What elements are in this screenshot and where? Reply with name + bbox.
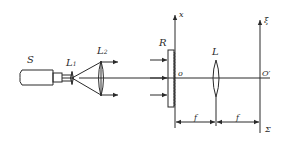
incident-arrows [150, 60, 167, 95]
label-lens1-sub: 1 [73, 60, 77, 67]
diagram-canvas [0, 0, 286, 143]
label-lens2-sub: 2 [104, 48, 108, 55]
label-lens1: L1 [66, 58, 76, 68]
label-lens1-main: L [66, 57, 73, 68]
label-lens-l: L [212, 47, 219, 57]
label-lens2-main: L [97, 45, 104, 56]
label-lens2: L2 [97, 46, 107, 56]
label-object-r: R [159, 38, 167, 48]
label-origin: o [178, 70, 183, 78]
label-x-axis: x [179, 11, 184, 19]
lens-l [213, 60, 219, 126]
label-source: S [27, 55, 34, 65]
label-origin-prime: O′ [262, 70, 270, 78]
optical-diagram: S L1 L2 R x o L ξ O′ f f Σ [0, 0, 286, 143]
label-focal-2: f [236, 114, 239, 122]
light-source [20, 70, 62, 85]
label-plane-sigma: Σ [265, 126, 271, 134]
label-focal-1: f [194, 114, 197, 122]
label-xi-axis: ξ [264, 17, 268, 25]
